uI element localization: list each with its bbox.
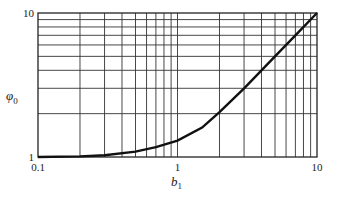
grid — [38, 13, 317, 157]
tick-label: 1 — [29, 151, 35, 163]
chart: 0.1110110 φ0 b1 — [0, 0, 338, 197]
y-axis-label: φ0 — [6, 88, 18, 106]
tick-label: 1 — [175, 161, 181, 173]
tick-label: 10 — [312, 161, 324, 173]
tick-labels: 0.1110110 — [23, 7, 323, 173]
x-axis-label: b1 — [171, 174, 182, 191]
tick-label: 10 — [23, 7, 35, 19]
